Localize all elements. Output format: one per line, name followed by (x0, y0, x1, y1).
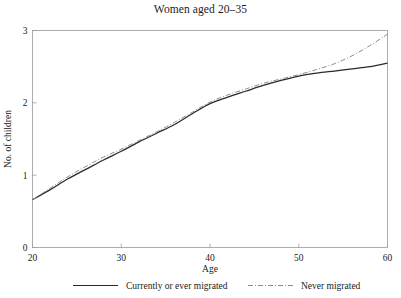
x-axis-ticks: 2030405060 (28, 244, 393, 263)
legend: Currently or ever migrated Never migrate… (73, 281, 361, 291)
y-tick-label: 3 (23, 26, 28, 36)
plot-area: 2030405060 0123 Age No. of children Curr… (0, 0, 401, 298)
y-axis-title: No. of children (3, 110, 13, 168)
x-tick-label: 20 (28, 253, 38, 263)
x-axis-title: Age (202, 264, 218, 274)
chart-figure: Women aged 20–35 2030405060 0123 Age No.… (0, 0, 401, 298)
series-line-never-migrated (33, 34, 388, 200)
y-axis-ticks: 0123 (23, 26, 37, 253)
x-tick-label: 60 (383, 253, 393, 263)
x-tick-label: 40 (205, 253, 215, 263)
y-tick-label: 1 (23, 171, 28, 181)
x-tick-label: 30 (117, 253, 127, 263)
series-line-currently-or-ever-migrated (33, 63, 388, 200)
legend-label-currently-or-ever-migrated: Currently or ever migrated (126, 281, 228, 291)
plot-frame (33, 31, 388, 248)
legend-label-never-migrated: Never migrated (301, 281, 361, 291)
x-tick-label: 50 (294, 253, 304, 263)
y-tick-label: 2 (23, 98, 28, 108)
y-tick-label: 0 (23, 243, 28, 253)
